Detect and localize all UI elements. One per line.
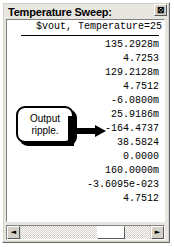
header-divider [21, 35, 159, 36]
screenshot-root: Temperature Sweep: ⊠ $vout, Temperature=… [0, 0, 174, 247]
callout-line-1: Output [30, 113, 60, 125]
value-row: 4.7512 [7, 80, 159, 94]
window-title: Temperature Sweep: [5, 6, 112, 18]
value-row: 160.0000m [7, 164, 159, 178]
close-icon: ⊠ [157, 6, 165, 15]
value-row: 4.7512 [7, 192, 159, 206]
temperature-sweep-window: Temperature Sweep: ⊠ $vout, Temperature=… [2, 2, 170, 243]
value-row: -3.6095e-023 [7, 178, 159, 192]
callout-arrow-icon [65, 116, 109, 150]
arrow-left-icon: ◄ [11, 229, 16, 236]
value-row: 4.7253 [7, 52, 159, 66]
value-row: 135.2928m [7, 38, 159, 52]
value-row: 0.0000 [7, 150, 159, 164]
scroll-left-button[interactable]: ◄ [7, 226, 20, 239]
scrollbar-thumb[interactable] [97, 226, 125, 239]
column-header: $vout, Temperature=25 [7, 21, 162, 32]
window-titlebar[interactable]: Temperature Sweep: [5, 4, 166, 19]
scrollbar-track[interactable] [21, 226, 150, 239]
arrow-right-icon: ► [155, 229, 160, 236]
callout-line-2: ripple. [31, 125, 58, 137]
close-button[interactable]: ⊠ [154, 4, 167, 16]
value-row: 129.2128m [7, 66, 159, 80]
horizontal-scrollbar[interactable]: ◄ ► [6, 225, 165, 240]
results-pane: $vout, Temperature=25 135.2928m4.7253129… [6, 19, 165, 222]
scroll-right-button[interactable]: ► [151, 226, 164, 239]
